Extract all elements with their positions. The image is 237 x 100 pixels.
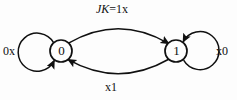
state-1-label: 1 (170, 44, 183, 57)
self-loop-1-label: x0 (216, 45, 228, 57)
arc-0-to-1-label-value: =1x (109, 2, 128, 16)
state-0-label: 0 (55, 44, 68, 57)
self-loop-1-edge (183, 32, 219, 70)
self-loop-0-edge (18, 33, 54, 71)
arc-0-to-1-label-variables: JK (96, 2, 109, 16)
self-loop-0-label: 0x (3, 45, 15, 57)
arc-0-to-1-label: JK=1x (96, 3, 128, 15)
arc-1-to-0-edge (68, 59, 169, 74)
arc-1-to-0-label: x1 (105, 81, 117, 93)
state-diagram-figure: 0 1 0x x0 JK=1x x1 (0, 0, 237, 100)
arc-0-to-1-edge (69, 29, 169, 44)
